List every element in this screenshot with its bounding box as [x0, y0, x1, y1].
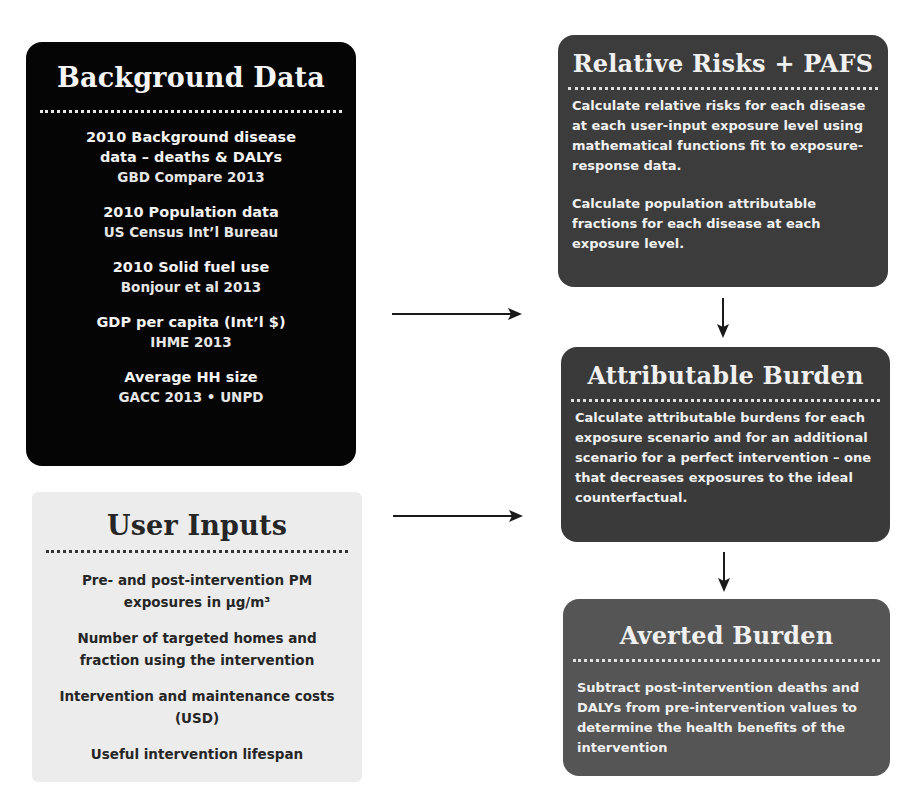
dotted-divider [573, 659, 880, 662]
background-data-box: Background Data 2010 Background disease … [26, 42, 356, 466]
relative-risks-body: Calculate relative risks for each diseas… [568, 96, 878, 254]
item-title: 2010 Background disease [34, 127, 348, 147]
background-item-population: 2010 Population data US Census Int’l Bur… [34, 202, 348, 242]
item-source: Bonjour et al 2013 [34, 277, 348, 297]
user-input-costs: Intervention and maintenance costs (USD) [40, 685, 354, 729]
dotted-divider [40, 110, 342, 113]
paragraph: Calculate population attributable fracti… [572, 194, 874, 254]
paragraph: Calculate attributable burdens for each … [575, 408, 876, 508]
user-input-lifespan: Useful intervention lifespan [40, 743, 354, 765]
averted-burden-box: Averted Burden Subtract post-interventio… [563, 599, 890, 776]
item-source: GBD Compare 2013 [34, 167, 348, 187]
paragraph: Subtract post-intervention deaths and DA… [577, 678, 876, 758]
user-inputs-box: User Inputs Pre- and post-intervention P… [32, 492, 362, 782]
item-title: 2010 Solid fuel use [34, 257, 348, 277]
user-input-pm-exposures: Pre- and post-intervention PM exposures … [40, 569, 354, 613]
attributable-burden-box: Attributable Burden Calculate attributab… [561, 347, 890, 542]
arrow-right-icon [390, 306, 526, 322]
user-inputs-list: Pre- and post-intervention PM exposures … [40, 569, 354, 765]
dotted-divider [46, 550, 348, 553]
background-data-title: Background Data [34, 56, 348, 100]
relative-risks-box: Relative Risks + PAFS Calculate relative… [558, 35, 888, 287]
averted-burden-body: Subtract post-intervention deaths and DA… [573, 678, 880, 758]
background-item-hh-size: Average HH size GACC 2013 • UNPD [34, 367, 348, 407]
background-item-solid-fuel: 2010 Solid fuel use Bonjour et al 2013 [34, 257, 348, 297]
averted-burden-title: Averted Burden [573, 617, 880, 655]
attributable-burden-title: Attributable Burden [571, 357, 880, 395]
arrow-right-icon [391, 508, 527, 524]
item-title: 2010 Population data [34, 202, 348, 222]
item-source: US Census Int’l Bureau [34, 222, 348, 242]
arrow-down-icon [715, 296, 731, 340]
item-source: GACC 2013 • UNPD [34, 387, 348, 407]
item-source: IHME 2013 [34, 332, 348, 352]
background-data-list: 2010 Background disease data – deaths & … [34, 127, 348, 407]
dotted-divider [571, 399, 880, 402]
user-input-targeted-homes: Number of targeted homes and fraction us… [40, 627, 354, 671]
relative-risks-title: Relative Risks + PAFS [568, 45, 878, 83]
paragraph: Calculate relative risks for each diseas… [572, 96, 874, 176]
arrow-down-icon [716, 550, 732, 594]
item-title: GDP per capita (Int’l $) [34, 312, 348, 332]
item-title: data – deaths & DALYs [34, 147, 348, 167]
background-item-disease: 2010 Background disease data – deaths & … [34, 127, 348, 187]
background-item-gdp: GDP per capita (Int’l $) IHME 2013 [34, 312, 348, 352]
user-inputs-title: User Inputs [40, 504, 354, 548]
dotted-divider [568, 87, 878, 90]
item-title: Average HH size [34, 367, 348, 387]
attributable-burden-body: Calculate attributable burdens for each … [571, 408, 880, 508]
